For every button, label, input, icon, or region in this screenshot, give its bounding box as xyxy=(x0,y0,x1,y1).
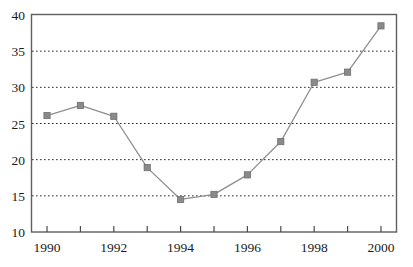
data-point-marker xyxy=(211,191,217,197)
y-tick-label: 40 xyxy=(12,8,26,23)
y-tick-label: 35 xyxy=(12,44,26,59)
y-tick-label: 20 xyxy=(12,153,26,168)
y-tick-label: 25 xyxy=(12,117,26,132)
data-point-marker xyxy=(311,79,317,85)
x-tick-label: 1994 xyxy=(167,240,194,255)
x-tick-label: 2000 xyxy=(367,240,394,255)
x-tick-label: 1992 xyxy=(100,240,127,255)
data-point-marker xyxy=(278,138,284,144)
chart-background xyxy=(0,0,413,267)
y-tick-label: 30 xyxy=(12,80,26,95)
line-chart: 10152025303540 199019921994199619982000 xyxy=(0,0,413,267)
y-tick-label: 10 xyxy=(12,225,26,240)
chart-canvas: 10152025303540 199019921994199619982000 xyxy=(0,0,413,267)
data-point-marker xyxy=(378,23,384,29)
data-point-marker xyxy=(244,172,250,178)
data-point-marker xyxy=(344,69,350,75)
data-point-marker xyxy=(111,113,117,119)
data-point-marker xyxy=(144,165,150,171)
x-tick-label: 1996 xyxy=(234,240,261,255)
x-tick-label: 1998 xyxy=(301,240,328,255)
data-point-marker xyxy=(44,112,50,118)
data-point-marker xyxy=(178,196,184,202)
x-tick-label: 1990 xyxy=(34,240,61,255)
data-point-marker xyxy=(77,102,83,108)
y-tick-label: 15 xyxy=(12,189,26,204)
